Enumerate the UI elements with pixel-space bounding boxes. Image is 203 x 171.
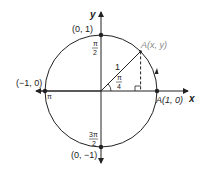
label-right: A(1, 0) — [155, 95, 183, 105]
radius-label: 1 — [115, 62, 120, 72]
point-right — [155, 89, 159, 93]
angle-bottom-den: 2 — [92, 140, 96, 147]
angle-arc — [108, 84, 111, 91]
angle-den: 4 — [117, 83, 121, 90]
angle-top-den: 2 — [93, 49, 97, 56]
label-top: (0, 1) — [72, 24, 93, 34]
x-axis-label: x — [188, 93, 195, 104]
angle-bottom-num: 3π — [89, 131, 98, 138]
angle-num: π — [117, 74, 122, 81]
point-moving — [139, 50, 141, 52]
angle-left: π — [47, 93, 52, 100]
direction-arrow-icon — [155, 68, 159, 74]
unit-circle-diagram: y x (0, 1) π 2 (−1, 0) π 3π 2 (0, −1) A(… — [0, 0, 203, 171]
y-axis-label: y — [89, 9, 96, 20]
label-bottom: (0, −1) — [71, 150, 97, 160]
angle-top-num: π — [93, 40, 98, 47]
right-angle-marker — [135, 86, 141, 91]
point-top — [99, 33, 103, 37]
label-moving: A(x, y) — [140, 40, 167, 50]
label-left: (−1, 0) — [16, 78, 42, 88]
point-bottom — [99, 145, 103, 149]
